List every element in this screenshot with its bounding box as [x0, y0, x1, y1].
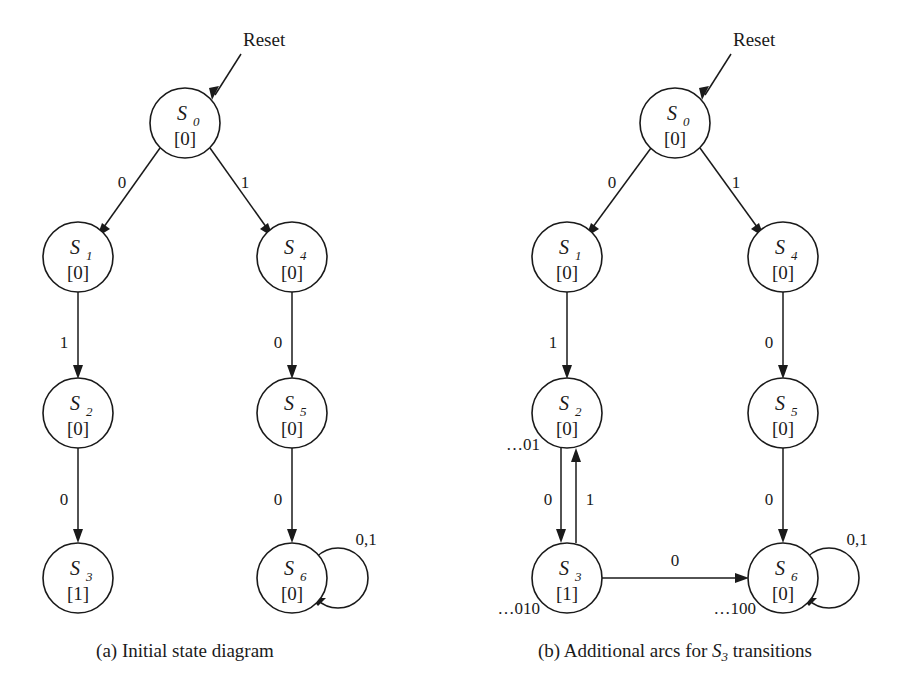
- state-output-a-s0: [0]: [174, 128, 196, 149]
- state-subscript-b-s0: 0: [683, 114, 690, 129]
- state-label-a-s1: S: [70, 236, 80, 258]
- state-subscript-a-s0: 0: [193, 114, 200, 129]
- state-node-a-s0[interactable]: S 0 [0]: [150, 88, 220, 158]
- state-output-b-s2: [0]: [556, 418, 578, 439]
- edge-label-b-s4-s5: 0: [765, 333, 774, 352]
- state-subscript-b-s5: 5: [791, 404, 798, 419]
- state-node-b-s4[interactable]: S 4 [0]: [748, 222, 818, 292]
- state-subscript-a-s3: 3: [85, 569, 93, 584]
- edge-label-a-s2-s3: 0: [60, 490, 69, 509]
- caption-b-tail: transitions: [728, 640, 812, 661]
- sequence-label-b-s3: …010: [498, 599, 541, 618]
- edge-label-a-s4-s5: 0: [274, 333, 283, 352]
- figure-canvas: Reset 0 1 1 0: [0, 0, 899, 689]
- edge-b-s3-s2: [571, 448, 581, 543]
- caption-b: (b) Additional arcs for S3 transitions: [538, 640, 812, 664]
- edge-a-s1-s2: [73, 292, 83, 379]
- state-node-b-s6[interactable]: S 6 [0]: [748, 543, 818, 613]
- state-subscript-a-s6: 6: [300, 569, 307, 584]
- state-node-a-s6[interactable]: S 6 [0]: [257, 543, 327, 613]
- edge-label-b-s3-s6: 0: [671, 551, 680, 570]
- state-node-a-s5[interactable]: S 5 [0]: [257, 378, 327, 448]
- edge-b-s1-s2: [562, 292, 572, 379]
- edge-b-s0-s4: [700, 148, 764, 237]
- state-label-b-s6: S: [775, 557, 785, 579]
- state-output-b-s4: [0]: [772, 262, 794, 283]
- edge-label-b-s2-s3: 0: [544, 490, 553, 509]
- state-label-b-s0: S: [667, 102, 677, 124]
- state-label-b-s2: S: [559, 392, 569, 414]
- state-label-b-s5: S: [775, 392, 785, 414]
- state-node-b-s5[interactable]: S 5 [0]: [748, 378, 818, 448]
- caption-a-prefix: (a): [96, 640, 117, 662]
- sequence-label-b-s6: …100: [714, 599, 757, 618]
- caption-b-prefix: (b): [538, 640, 560, 662]
- state-label-a-s4: S: [284, 236, 294, 258]
- sequence-label-b-s2: …01: [506, 435, 540, 454]
- reset-label-a: Reset: [243, 29, 286, 50]
- state-output-a-s4: [0]: [281, 262, 303, 283]
- state-subscript-b-s1: 1: [575, 248, 582, 263]
- panel-b: Reset 0 1 1 0: [498, 29, 868, 664]
- state-node-b-s2[interactable]: S 2 [0]: [532, 378, 602, 448]
- state-node-a-s4[interactable]: S 4 [0]: [257, 222, 327, 292]
- state-subscript-a-s4: 4: [300, 248, 307, 263]
- state-output-b-s1: [0]: [556, 262, 578, 283]
- edge-label-b-s0-s4: 1: [732, 173, 741, 192]
- state-node-b-s1[interactable]: S 1 [0]: [532, 222, 602, 292]
- state-label-a-s6: S: [284, 557, 294, 579]
- state-subscript-b-s4: 4: [791, 248, 798, 263]
- state-label-a-s2: S: [70, 392, 80, 414]
- edge-a-s0-s1: [97, 148, 160, 237]
- state-label-a-s3: S: [70, 557, 80, 579]
- edge-a-s2-s3: [73, 448, 83, 543]
- state-node-b-s3[interactable]: S 3 [1]: [532, 543, 602, 613]
- state-subscript-a-s5: 5: [300, 404, 307, 419]
- caption-b-text: Additional arcs for: [564, 640, 712, 661]
- edge-a-s4-s5: [287, 292, 297, 379]
- edge-b-s0-s1: [586, 148, 651, 237]
- state-output-a-s1: [0]: [67, 262, 89, 283]
- edge-b-s3-s6: [602, 573, 749, 583]
- edge-label-b-s1-s2: 1: [549, 333, 558, 352]
- state-label-b-s1: S: [559, 236, 569, 258]
- state-label-a-s5: S: [284, 392, 294, 414]
- state-label-a-s0: S: [177, 102, 187, 124]
- state-label-b-s4: S: [775, 236, 785, 258]
- edge-label-a-s0-s1: 0: [118, 173, 127, 192]
- state-output-a-s6: [0]: [281, 583, 303, 604]
- state-node-a-s2[interactable]: S 2 [0]: [43, 378, 113, 448]
- state-output-b-s3: [1]: [556, 583, 578, 604]
- state-output-b-s0: [0]: [664, 128, 686, 149]
- self-loop-label-a-s6: 0,1: [355, 530, 376, 549]
- state-subscript-a-s2: 2: [86, 404, 93, 419]
- state-diagram-figure: Reset 0 1 1 0: [0, 0, 899, 689]
- edge-label-a-s5-s6: 0: [274, 490, 283, 509]
- state-node-b-s0[interactable]: S 0 [0]: [640, 88, 710, 158]
- edge-label-b-s0-s1: 0: [608, 173, 617, 192]
- state-node-a-s3[interactable]: S 3 [1]: [43, 543, 113, 613]
- panel-a: Reset 0 1 1 0: [43, 29, 377, 662]
- state-output-b-s5: [0]: [772, 418, 794, 439]
- self-loop-label-b-s6: 0,1: [846, 530, 867, 549]
- edge-label-b-s3-s2: 1: [586, 490, 595, 509]
- state-subscript-b-s2: 2: [575, 404, 582, 419]
- edge-label-a-s0-s4: 1: [241, 173, 250, 192]
- edge-b-s5-s6: [778, 448, 788, 543]
- state-output-a-s5: [0]: [281, 418, 303, 439]
- state-output-a-s3: [1]: [67, 583, 89, 604]
- state-subscript-b-s3: 3: [574, 569, 582, 584]
- edge-a-s0-s4: [210, 148, 273, 237]
- edge-b-s2-s3: [556, 448, 566, 543]
- edge-label-a-s1-s2: 1: [60, 333, 69, 352]
- caption-a: (a) Initial state diagram: [96, 640, 274, 662]
- reset-arrow-b: [699, 54, 731, 100]
- state-label-b-s3: S: [559, 557, 569, 579]
- state-node-a-s1[interactable]: S 1 [0]: [43, 222, 113, 292]
- state-output-b-s6: [0]: [772, 583, 794, 604]
- caption-a-text: Initial state diagram: [122, 640, 274, 661]
- caption-b-state: S: [712, 640, 722, 661]
- state-output-a-s2: [0]: [67, 418, 89, 439]
- edge-a-s5-s6: [287, 448, 297, 543]
- reset-label-b: Reset: [733, 29, 776, 50]
